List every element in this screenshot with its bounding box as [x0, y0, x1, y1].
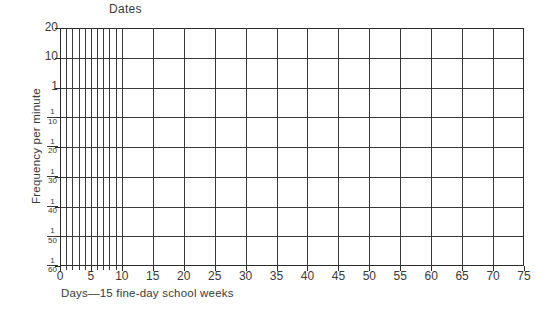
x-tick-label: 55	[385, 269, 415, 283]
x-axis-tick-labels: 051015202530354045505560657075	[0, 269, 555, 287]
x-tick-label: 20	[169, 269, 199, 283]
y-axis-tick-labels: 20101110120130140150160	[0, 0, 58, 315]
x-tick-label: 75	[509, 269, 539, 283]
grid-lines	[60, 28, 524, 266]
y-tick-label: 1	[4, 80, 58, 92]
y-tick-label: 130	[4, 168, 58, 186]
x-axis-title: Days—15 fine-day school weeks	[61, 287, 234, 299]
x-tick-label: 5	[76, 269, 106, 283]
x-tick-label: 70	[478, 269, 508, 283]
x-tick-label: 10	[107, 269, 137, 283]
x-tick-label: 40	[292, 269, 322, 283]
y-tick-label: 150	[4, 227, 58, 245]
standard-celeration-chart: Dates Frequency per minute 2010111012013…	[0, 0, 555, 315]
x-tick-label: 30	[231, 269, 261, 283]
x-tick-label: 0	[45, 269, 75, 283]
x-tick-label: 45	[323, 269, 353, 283]
x-tick-label: 25	[200, 269, 230, 283]
x-tick-label: 60	[416, 269, 446, 283]
x-tick-label: 50	[354, 269, 384, 283]
plot-area	[60, 28, 524, 266]
x-tick-label: 35	[262, 269, 292, 283]
y-tick-label: 20	[4, 21, 58, 33]
chart-top-title: Dates	[109, 2, 142, 16]
y-tick-label: 10	[4, 50, 58, 62]
y-tick-label: 110	[4, 108, 58, 126]
x-tick-label: 65	[447, 269, 477, 283]
y-tick-label: 140	[4, 198, 58, 216]
x-tick-label: 15	[138, 269, 168, 283]
y-tick-label: 120	[4, 138, 58, 156]
